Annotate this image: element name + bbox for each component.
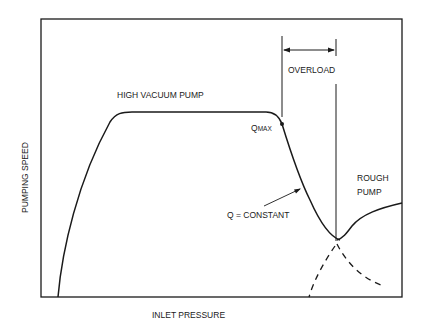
rough-pump-curve (337, 203, 402, 240)
high-vacuum-dashed-extension (337, 244, 384, 286)
y-axis-label: PUMPING SPEED (20, 142, 30, 213)
high-vacuum-pump-curve (58, 112, 340, 297)
rough-pump-label-line1: ROUGH (357, 173, 389, 183)
rough-pump-label-line2: PUMP (357, 187, 382, 197)
q-max-point (280, 122, 284, 126)
high-vacuum-pump-label: HIGH VACUUM PUMP (117, 90, 204, 100)
overload-right-arrowhead (328, 48, 335, 53)
q-constant-arrowhead (294, 189, 301, 194)
plot-frame (41, 19, 402, 297)
q-constant-leader (264, 189, 300, 206)
overload-label: OVERLOAD (288, 65, 335, 75)
rough-pump-dashed-extension (309, 246, 335, 297)
q-max-label: QMAX (251, 123, 272, 133)
q-constant-label: Q = CONSTANT (227, 210, 289, 220)
q-max-subscript: MAX (258, 125, 273, 132)
x-axis-label: INLET PRESSURE (152, 310, 225, 320)
overload-left-arrowhead (283, 48, 290, 53)
pump-speed-diagram: HIGH VACUUM PUMP QMAX OVERLOAD Q = CONST… (0, 0, 424, 322)
